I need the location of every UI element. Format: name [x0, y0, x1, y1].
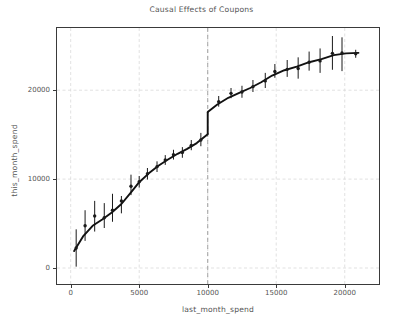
- fit-line: [74, 53, 358, 251]
- y-tick-mark: [53, 90, 56, 91]
- chart-title: Causal Effects of Coupons: [0, 5, 403, 14]
- y-axis-label: this_month_spend: [10, 101, 19, 221]
- plot-area: [56, 27, 380, 285]
- x-tick-mark: [208, 285, 209, 288]
- y-tick-label: 20000: [0, 86, 50, 94]
- x-tick-mark: [345, 285, 346, 288]
- x-tick-mark: [71, 285, 72, 288]
- chart-figure: Causal Effects of Coupons 05000100001500…: [0, 0, 403, 326]
- plot-svg: [57, 28, 379, 284]
- error-bars: [76, 36, 356, 267]
- y-tick-mark: [53, 179, 56, 180]
- y-tick-label: 0: [0, 264, 50, 272]
- x-tick-mark: [276, 285, 277, 288]
- x-tick-label: 10000: [197, 289, 219, 297]
- x-tick-label: 15000: [265, 289, 287, 297]
- gridlines-y: [57, 90, 379, 268]
- x-tick-label: 5000: [130, 289, 148, 297]
- y-tick-mark: [53, 268, 56, 269]
- x-tick-label: 20000: [334, 289, 356, 297]
- y-tick-label: 10000: [0, 175, 50, 183]
- x-axis-label: last_month_spend: [56, 305, 380, 314]
- x-tick-mark: [139, 285, 140, 288]
- data-point-markers: [74, 51, 357, 250]
- x-tick-label: 0: [68, 289, 72, 297]
